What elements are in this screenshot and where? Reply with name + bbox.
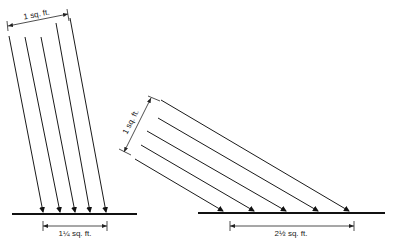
right-beam-width-label: 1 sq. ft. — [121, 108, 141, 135]
sun-ray-arrow — [9, 36, 43, 212]
left-panel: 1 sq. ft. 1¼ sq. ft. — [7, 8, 137, 238]
left-ground-area-label: 1¼ sq. ft. — [59, 229, 92, 238]
sun-ray-arrow — [70, 18, 106, 212]
right-rays — [135, 100, 349, 211]
dimension-tick — [7, 21, 8, 31]
left-rays — [9, 18, 106, 212]
dimension-tick — [67, 9, 69, 21]
sun-ray-arrow — [158, 118, 318, 211]
right-beam-width-dimension: 1 sq. ft. — [119, 96, 160, 155]
sun-ray-arrow — [25, 37, 60, 212]
sun-angle-diagram: 1 sq. ft. 1¼ sq. ft. 1 sq. ft. — [0, 0, 393, 243]
right-ground-area-dimension: 2½ sq. ft. — [230, 221, 354, 238]
sun-ray-arrow — [141, 145, 254, 211]
right-ground-area-label: 2½ sq. ft. — [275, 229, 308, 238]
left-beam-width-dimension: 1 sq. ft. — [7, 8, 69, 31]
left-ground-area-dimension: 1¼ sq. ft. — [43, 221, 107, 238]
sun-ray-arrow — [147, 131, 286, 211]
sun-ray-arrow — [56, 23, 90, 212]
left-beam-width-label: 1 sq. ft. — [23, 8, 50, 22]
right-panel: 1 sq. ft. 2½ sq. ft. — [119, 96, 385, 238]
sun-ray-arrow — [41, 37, 75, 212]
